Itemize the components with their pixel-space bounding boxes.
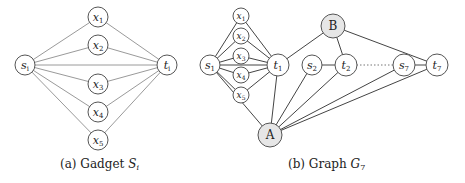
gadget-edge xyxy=(98,65,167,84)
node-x1: x1 xyxy=(88,7,108,27)
node-bx1: x1 xyxy=(233,8,249,24)
caption-b: (b) Graph G7 xyxy=(288,157,365,172)
node-t_i: ti xyxy=(157,55,177,75)
node-bx5: x5 xyxy=(233,87,249,103)
node-x2: x2 xyxy=(88,35,108,55)
node-s7: s7 xyxy=(393,54,415,76)
graph-edge xyxy=(270,65,437,135)
node-x4: x4 xyxy=(88,102,108,122)
node-bx4: x4 xyxy=(233,67,249,83)
node-A: A xyxy=(258,123,282,147)
node-x5: x5 xyxy=(88,130,108,150)
node-s_i: si xyxy=(15,55,35,75)
figure-canvas: six1x2x3x4x5ti s1x1x2x3x4x5t1Bs2t2s7t7A … xyxy=(0,0,465,183)
svg-text:A: A xyxy=(265,128,275,142)
gadget-edge xyxy=(25,65,98,140)
node-t1: t1 xyxy=(267,54,289,76)
gadget-edge xyxy=(25,65,98,84)
gadget-edge xyxy=(25,65,98,112)
node-bx2: x2 xyxy=(233,28,249,44)
gadget-nodes: six1x2x3x4x5ti xyxy=(15,7,177,150)
caption-a: (a) Gadget Si xyxy=(60,157,139,172)
node-s2: s2 xyxy=(302,55,322,75)
svg-text:B: B xyxy=(329,19,338,33)
node-x3: x3 xyxy=(88,74,108,94)
graph-nodes: s1x1x2x3x4x5t1Bs2t2s7t7A xyxy=(200,8,448,147)
node-B: B xyxy=(321,14,345,38)
gadget-edge xyxy=(25,45,98,65)
node-t7: t7 xyxy=(426,54,448,76)
gadget-edge xyxy=(98,45,167,65)
gadget-edge xyxy=(98,65,167,112)
gadget-edge xyxy=(98,65,167,140)
graph-edge xyxy=(270,65,404,135)
node-bx3: x3 xyxy=(233,48,249,64)
node-s1: s1 xyxy=(200,55,220,75)
gadget-edge xyxy=(98,17,167,65)
gadget-edge xyxy=(25,17,98,65)
node-t2: t2 xyxy=(335,54,357,76)
